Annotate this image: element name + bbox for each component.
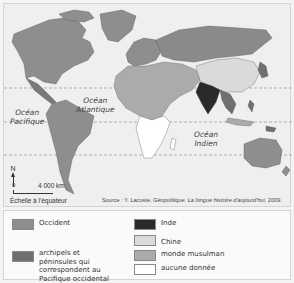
- ocean-label-pacific: Océan Pacifique: [10, 108, 44, 126]
- region-muslim-world: [114, 62, 200, 120]
- scale-zero: 0: [12, 182, 15, 188]
- scale-note: Échelle à l'équateur: [10, 197, 67, 204]
- swatch-occident: [12, 219, 34, 230]
- legend-item-aucune-donnee: aucune donnée: [134, 264, 215, 275]
- swatch-inde: [134, 219, 156, 230]
- map-legend: Occident archipels et péninsules qui cor…: [3, 210, 291, 280]
- legend-item-inde: Inde: [134, 219, 176, 230]
- region-subsaharan-africa: [136, 116, 170, 158]
- ocean-label-indian: Océan Indien: [194, 130, 218, 148]
- ocean-label-atlantic: Océan Atlantique: [76, 96, 115, 114]
- region-southeast-asia: [220, 90, 236, 114]
- legend-item-chine: Chine: [134, 235, 181, 247]
- swatch-chine: [134, 235, 156, 246]
- legend-item-pacifique-occidental: archipels et péninsules qui corresponden…: [12, 249, 119, 283]
- region-south-america: [46, 100, 94, 194]
- region-europe: [126, 38, 162, 66]
- region-greenland: [100, 10, 136, 42]
- region-russia: [156, 26, 272, 62]
- scale-distance: 4 000 km: [38, 182, 65, 189]
- swatch-monde-musulman: [134, 250, 156, 261]
- source-citation: Source : Y. Lacoste, Géopolitique. La lo…: [102, 197, 282, 203]
- world-map: Océan Pacifique Océan Atlantique Océan I…: [3, 3, 291, 207]
- legend-item-occident: Occident: [12, 219, 70, 230]
- legend-item-monde-musulman: monde musulman: [134, 250, 224, 261]
- world-map-svg: [4, 4, 292, 208]
- region-north-america: [12, 18, 94, 84]
- swatch-aucune-donnee: [134, 264, 156, 275]
- swatch-pacifique-occidental: [12, 251, 34, 262]
- region-australia: [244, 138, 282, 168]
- scale-bar: [13, 190, 53, 194]
